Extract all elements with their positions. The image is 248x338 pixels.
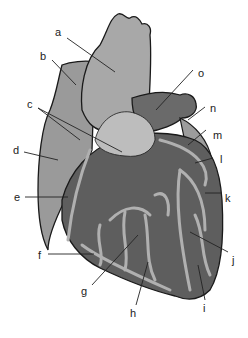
- label-b: b: [40, 51, 46, 62]
- label-k: k: [225, 193, 231, 204]
- label-n: n: [210, 103, 216, 114]
- label-l: l: [220, 154, 222, 165]
- label-j: j: [232, 255, 234, 266]
- label-m: m: [213, 130, 222, 141]
- label-c: c: [27, 99, 33, 110]
- label-f: f: [38, 250, 41, 261]
- label-o: o: [198, 68, 204, 79]
- label-a: a: [55, 27, 61, 38]
- heart-illustration: [0, 0, 248, 338]
- label-g: g: [81, 286, 87, 297]
- heart-diagram: a b c d e f g h i j k l m n o: [0, 0, 248, 338]
- label-d: d: [13, 145, 19, 156]
- label-i: i: [203, 303, 205, 314]
- label-e: e: [14, 192, 20, 203]
- label-h: h: [130, 308, 136, 319]
